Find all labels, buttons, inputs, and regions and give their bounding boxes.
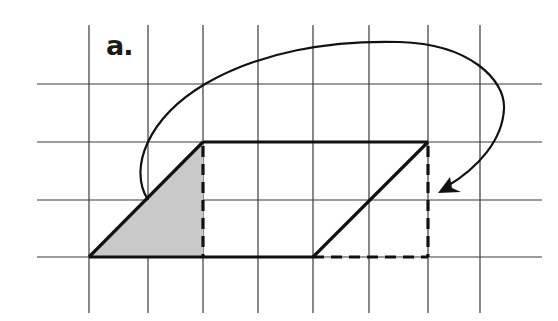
parallelogram-diagram: a. xyxy=(0,0,558,321)
figure-label: a. xyxy=(106,30,132,61)
dashed-edges xyxy=(203,146,428,257)
grid xyxy=(37,25,542,313)
